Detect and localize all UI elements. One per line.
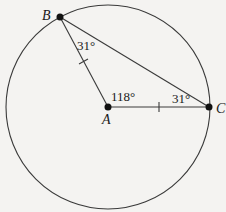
point-label-c: C — [216, 101, 226, 116]
point-c — [206, 104, 213, 111]
angle-label-c: 31° — [172, 91, 190, 106]
point-b — [57, 14, 64, 21]
point-a — [105, 104, 112, 111]
circle-diagram: A B C 31° 118° 31° — [0, 0, 226, 212]
point-label-a: A — [101, 112, 111, 127]
tick-mark-ab — [79, 59, 88, 64]
angle-label-a: 118° — [111, 89, 135, 104]
point-label-b: B — [42, 8, 51, 23]
segment-ab — [60, 17, 108, 107]
angle-label-b: 31° — [77, 38, 95, 53]
